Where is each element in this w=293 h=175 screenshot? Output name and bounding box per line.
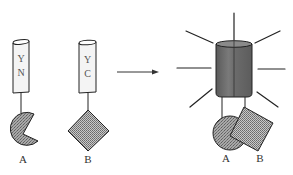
- yc-label-top: Y: [84, 54, 91, 65]
- reconstituted-complex: A B: [177, 13, 285, 164]
- reaction-arrow: [117, 70, 159, 75]
- domain-a-pacman: [10, 112, 38, 145]
- label-b-left: B: [84, 153, 91, 165]
- arrowhead-icon: [152, 70, 159, 75]
- ray-lower-left: [190, 89, 212, 107]
- diagram-canvas: Y N A Y C B: [0, 0, 293, 175]
- yc-fragment-tube: Y C: [79, 40, 96, 93]
- fluorescent-barrel: [216, 41, 252, 97]
- yn-fragment-tube: Y N: [13, 39, 29, 93]
- construct-yc-b: Y C B: [68, 40, 109, 165]
- yc-label-bottom: C: [84, 68, 91, 79]
- ray-upper-right: [255, 31, 280, 43]
- ray-upper-left: [186, 31, 213, 43]
- yn-label-bottom: N: [17, 67, 24, 78]
- yn-label-top: Y: [17, 53, 24, 64]
- label-a-left: A: [19, 153, 27, 165]
- domain-b-diamond: [68, 110, 109, 151]
- ray-lower-right: [257, 92, 278, 107]
- label-a-right: A: [222, 152, 230, 164]
- construct-yn-a: Y N A: [10, 39, 38, 165]
- label-b-right: B: [256, 152, 263, 164]
